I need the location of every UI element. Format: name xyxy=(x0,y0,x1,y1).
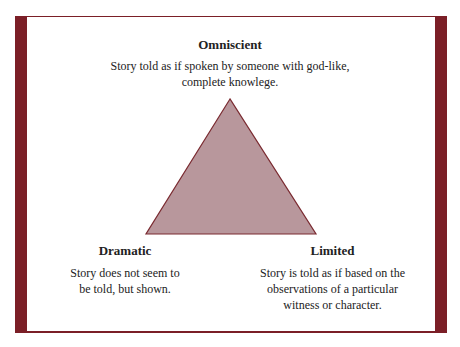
omniscient-desc-line-1: Story told as if spoken by someone with … xyxy=(80,58,380,74)
limited-desc-line-2: observations of a particular xyxy=(245,281,420,297)
triangle-shape xyxy=(146,99,316,234)
limited-desc-line-1: Story is told as if based on the xyxy=(245,265,420,281)
dramatic-desc-line-2: be told, but shown. xyxy=(50,281,200,297)
omniscient-description: Story told as if spoken by someone with … xyxy=(80,58,380,90)
omniscient-title: Omniscient xyxy=(130,37,330,53)
omniscient-desc-line-2: complete knowlege. xyxy=(80,74,380,90)
limited-desc-line-3: witness or character. xyxy=(245,297,420,313)
dramatic-title: Dramatic xyxy=(60,243,190,259)
dramatic-description: Story does not seem to be told, but show… xyxy=(50,265,200,297)
limited-description: Story is told as if based on the observa… xyxy=(245,265,420,313)
dramatic-desc-line-1: Story does not seem to xyxy=(50,265,200,281)
limited-title: Limited xyxy=(270,243,395,259)
